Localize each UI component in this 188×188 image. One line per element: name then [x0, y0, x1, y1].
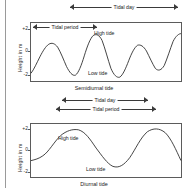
low-tide-label-diurnal: Low tide: [86, 166, 105, 172]
caption-semidiurnal: Semidiurnal tide: [0, 85, 188, 91]
high-tide-label-diurnal: High tide: [58, 135, 78, 141]
tidal-day-label: Tidal day: [93, 96, 118, 104]
arrow-right-icon: [174, 4, 178, 10]
diurnal-tide-chart: Tidal day Tidal period Height in m +2 0 …: [0, 96, 188, 188]
y-tick-label-bottom-diurnal: -2: [14, 168, 28, 174]
arrow-left-icon: [70, 4, 74, 10]
plot-area-diurnal: [30, 123, 182, 178]
tidal-period-label: Tidal period: [50, 23, 81, 31]
low-tide-label-semidiurnal: Low tide: [88, 70, 107, 76]
tidal-day-span-diurnal: Tidal day: [62, 97, 148, 104]
arrow-left-icon: [56, 106, 60, 112]
high-tide-label-semidiurnal: High tide: [94, 30, 114, 36]
curve-path: [31, 129, 181, 167]
arrow-left-icon: [33, 24, 37, 30]
tide-curve-diurnal: [31, 124, 181, 177]
tidal-period-label: Tidal period: [91, 105, 122, 113]
tidal-day-span-semidiurnal: Tidal day: [70, 4, 178, 11]
arrow-right-icon: [144, 97, 148, 103]
y-tick-label-mid-semidiurnal: 0: [14, 47, 28, 53]
y-tick-label-bottom-semidiurnal: -2: [14, 71, 28, 77]
y-tick-label-mid-diurnal: 0: [14, 146, 28, 152]
arrow-left-icon: [62, 97, 66, 103]
tide-figure-page: Tidal day Height in m +2 0 -2 Tidal peri…: [0, 0, 188, 188]
tidal-period-span-diurnal: Tidal period: [56, 106, 156, 113]
caption-diurnal: Diurnal tide: [0, 181, 188, 187]
semidiurnal-tide-chart: Tidal day Height in m +2 0 -2 Tidal peri…: [0, 0, 188, 96]
tidal-period-span-semidiurnal: Tidal period: [33, 24, 97, 31]
y-tick-label-top-semidiurnal: +2: [14, 25, 28, 31]
tidal-day-label: Tidal day: [112, 3, 137, 11]
y-tick-label-top-diurnal: +2: [14, 125, 28, 131]
arrow-right-icon: [152, 106, 156, 112]
